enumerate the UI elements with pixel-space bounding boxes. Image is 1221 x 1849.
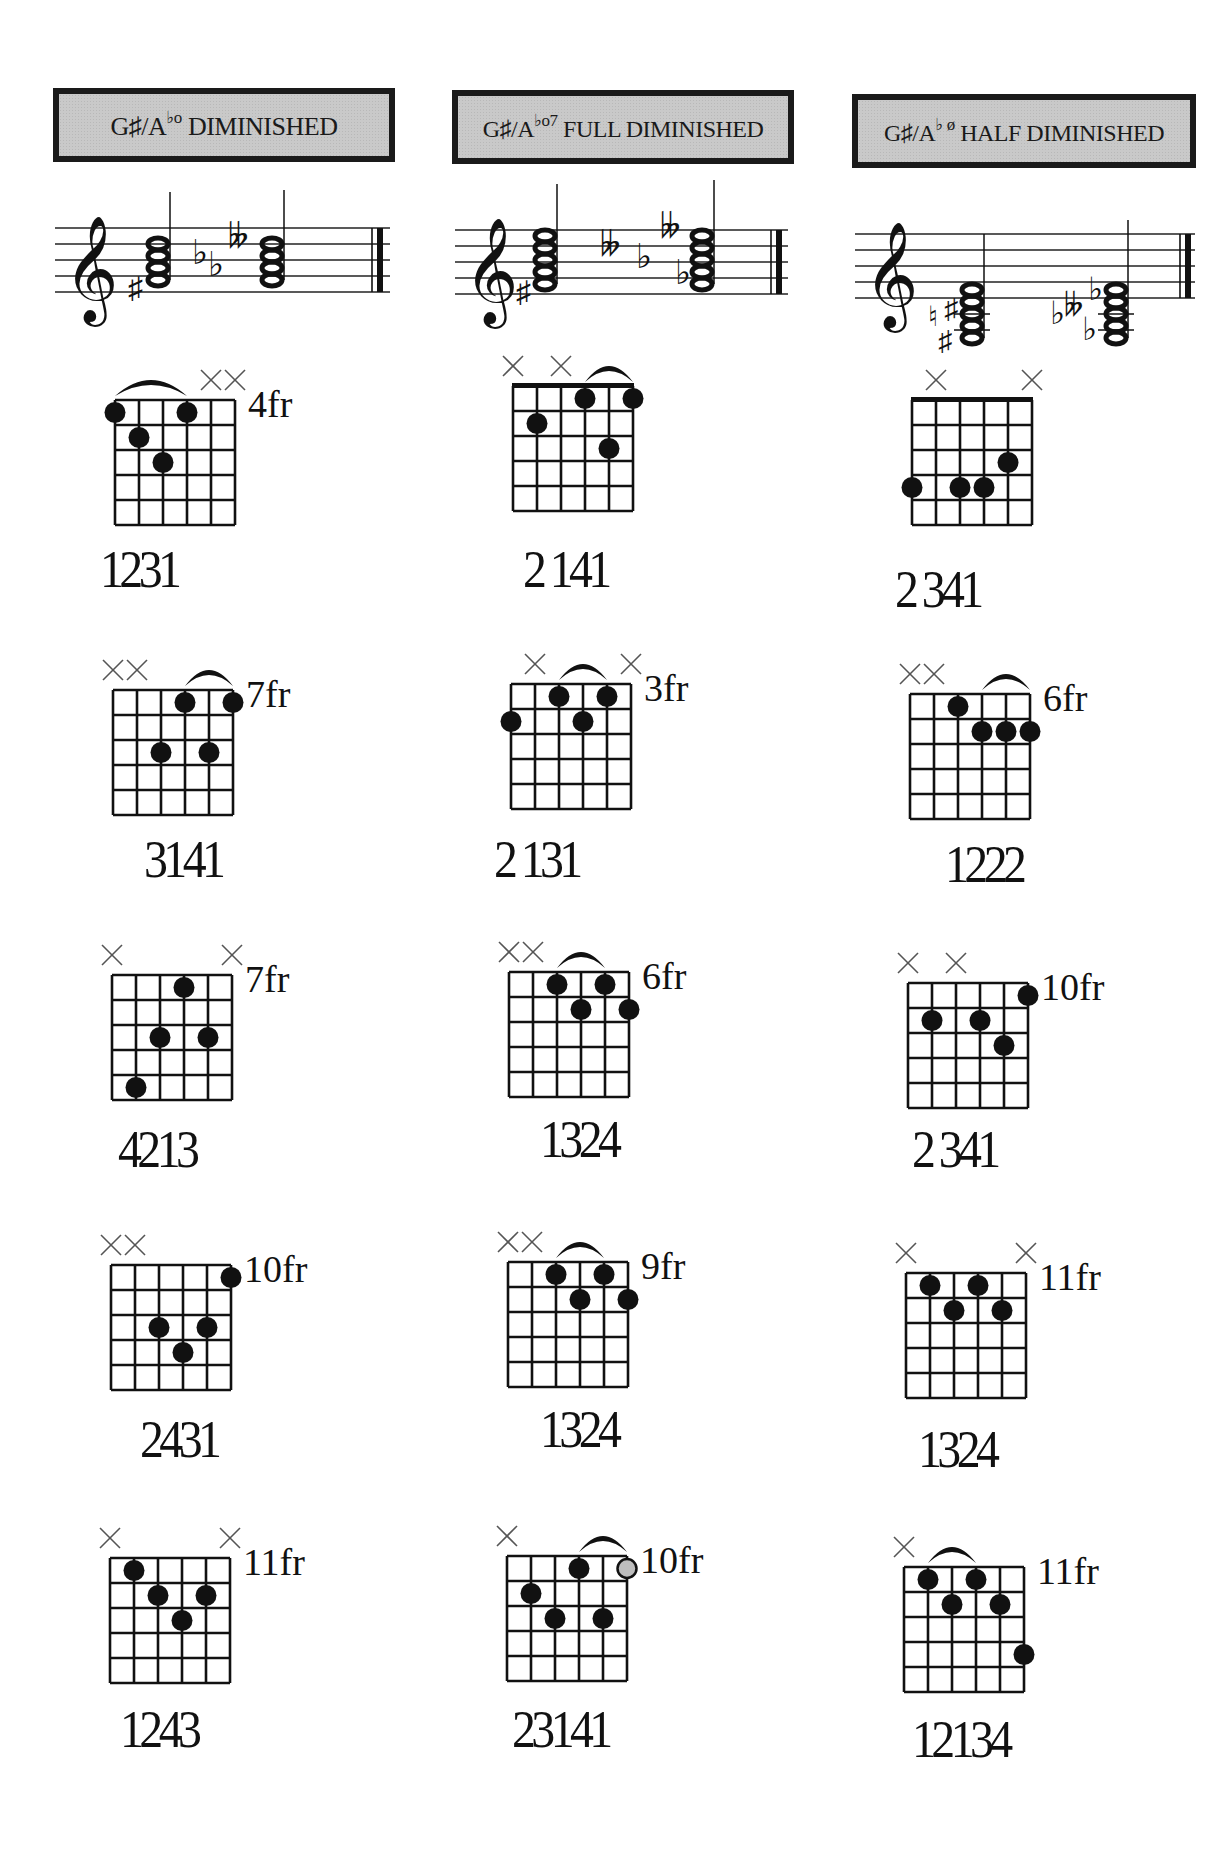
mute-x-icon [894,1537,914,1557]
mute-x-icon [498,1232,518,1252]
chord-diagram: 11fr [876,1223,1106,1423]
mute-x-icon [102,945,122,965]
finger-dot [175,692,196,713]
mute-x-icon [896,1243,916,1263]
mute-x-icon [551,356,571,376]
fingering-label: 1324 [540,1110,617,1169]
chord-diagram: 6fr [880,644,1110,844]
fret-label: 10fr [1041,966,1105,1008]
final-barline-thick [377,228,383,292]
chord-title: G♯/A♭ ø HALF DIMINISHED [884,116,1164,147]
treble-clef-icon: 𝄞 [64,217,118,327]
title-quality: FULL DIMINISHED [563,116,763,142]
mute-x-icon [220,1528,240,1548]
finger-dot [148,1585,169,1606]
fingering-label: 1324 [918,1420,995,1479]
nut [512,383,634,388]
fret-label: 11fr [1039,1256,1101,1298]
fret-label: 9fr [641,1245,686,1287]
barre-arc-icon [559,664,607,680]
finger-dot [197,1317,218,1338]
mute-x-icon [523,942,543,962]
chord-title: G♯/A♭o DIMINISHED [111,109,338,142]
finger-dot [593,1608,614,1629]
finger-dot [994,1035,1015,1056]
final-barline-thick [1185,234,1191,298]
title-root: G♯/A [111,111,167,140]
fret-label: 10fr [640,1539,704,1581]
mute-x-icon [621,654,641,674]
mute-x-icon [898,953,918,973]
finger-dot [521,1583,542,1604]
fret-label: 11fr [1037,1550,1099,1592]
mute-x-icon [522,1232,542,1252]
finger-dot [124,1560,145,1581]
chord-notes-1 [535,230,555,290]
fingering-label: 1222 [945,835,1022,894]
chord-title: G♯/A♭o7 FULL DIMINISHED [483,112,764,143]
fingering-label: 2 341 [895,560,980,619]
mute-x-icon [503,356,523,376]
barre-arc-icon [556,1242,604,1258]
chord-diagram: 10fr [81,1215,311,1415]
finger-dot [545,1608,566,1629]
chord-diagram: 7fr [82,925,312,1125]
finger-dot [944,1300,965,1321]
chord-diagram: 3fr [481,634,711,834]
finger-dot [599,438,620,459]
finger-dot [172,1610,193,1631]
finger-dot [992,1300,1013,1321]
chord-title-box: G♯/A♭o7 FULL DIMINISHED [452,90,794,164]
sharp-icon: ♯ [128,271,143,304]
finger-dot [221,1267,242,1288]
barre-arc-icon [585,366,633,382]
mute-x-icon [201,370,221,390]
final-barline-thick [776,230,782,294]
fingering-label: 4213 [118,1120,195,1179]
fingering-label: 2 141 [523,540,608,599]
finger-dot [920,1275,941,1296]
mute-x-icon [222,945,242,965]
fret-label: 6fr [1043,677,1088,719]
finger-dot [196,1585,217,1606]
finger-dot [573,711,594,732]
finger-dot [942,1594,963,1615]
barre-arc-icon [115,380,187,396]
finger-dot [149,1317,170,1338]
flat-icon: ♭ [1088,271,1103,307]
finger-dot [623,388,644,409]
finger-dot [129,427,150,448]
chord-notes-1 [148,238,168,286]
finger-dot [996,721,1017,742]
finger-dot [594,1264,615,1285]
mute-x-icon [225,370,245,390]
chord-diagram: 11fr [80,1508,310,1708]
mute-x-icon [499,942,519,962]
chord-diagram: 4fr [85,350,315,550]
mute-x-icon [1022,370,1042,390]
mute-x-icon [497,1526,517,1546]
barre-arc-icon [557,952,605,968]
chord-diagram: 10fr [477,1506,707,1706]
mute-x-icon [926,370,946,390]
barre-arc-icon [982,674,1030,690]
fret-label: 11fr [243,1541,305,1583]
finger-dot [569,1558,590,1579]
mute-x-icon [924,664,944,684]
finger-dot [126,1077,147,1098]
double-flat-icon: 𝄫 [660,208,680,245]
finger-dot [950,477,971,498]
mute-x-icon [101,1235,121,1255]
finger-dot [922,1010,943,1031]
title-symbol: ♭ ø [935,115,954,134]
finger-dot [153,452,174,473]
fret-label: 7fr [245,958,290,1000]
mute-x-icon [525,654,545,674]
finger-dot [223,692,244,713]
sharp-icon: ♯ [516,275,531,308]
finger-dot [570,1289,591,1310]
flat-icon: ♭ [1050,295,1065,331]
fret-label: 7fr [246,673,291,715]
finger-dot [173,1342,194,1363]
finger-dot [575,388,596,409]
